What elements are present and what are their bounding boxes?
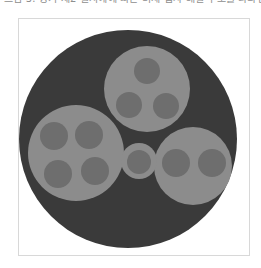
cluster-left-dot-4 — [81, 157, 109, 185]
cluster-top-dot-1 — [134, 58, 160, 84]
cluster-right-dot-2 — [198, 149, 226, 177]
cluster-right-dot-1 — [162, 149, 190, 177]
cluster-left-dot-3 — [44, 160, 72, 188]
cluster-top-dot-2 — [116, 92, 142, 118]
page-root: 그림 3. 상기 제2 실시예에 따른 미세 입자 배열 구조를 나타낸 단면도… — [0, 0, 261, 268]
figure-frame — [18, 18, 250, 256]
cluster-left — [28, 105, 124, 201]
figure-caption-text: 그림 3. 상기 제2 실시예에 따른 미세 입자 배열 구조를 나타낸 단면도… — [4, 0, 260, 4]
figure-caption-strip: 그림 3. 상기 제2 실시예에 따른 미세 입자 배열 구조를 나타낸 단면도… — [0, 0, 261, 11]
cluster-top-dot-3 — [153, 93, 179, 119]
cluster-left-dot-2 — [75, 121, 103, 149]
figure-diagram — [19, 19, 249, 255]
cluster-left-dot-1 — [40, 122, 68, 150]
cluster-center-dot-1 — [127, 150, 151, 174]
